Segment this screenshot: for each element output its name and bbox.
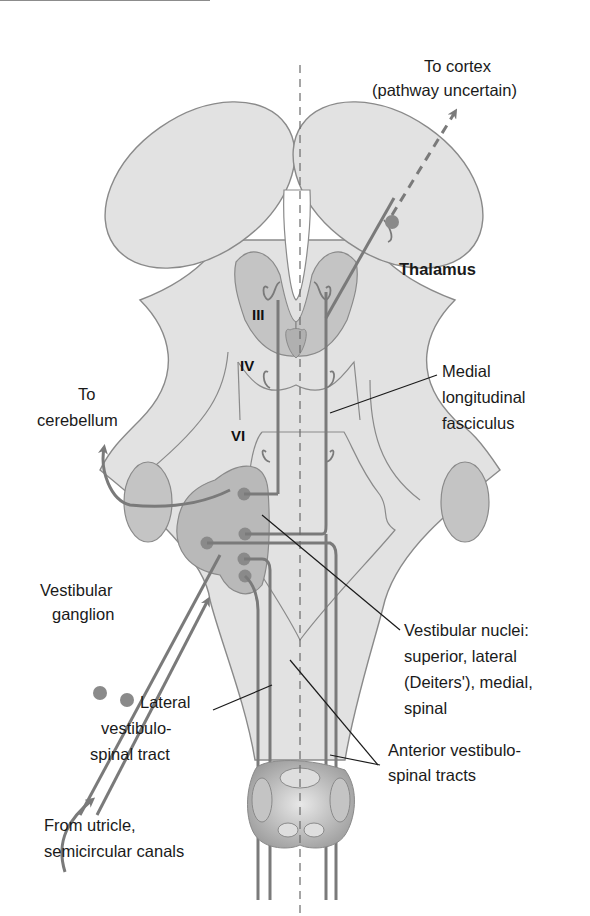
label-thalamus: Thalamus bbox=[399, 259, 476, 279]
label-pathway-uncertain: (pathway uncertain) bbox=[372, 80, 517, 100]
label-vestibular-nuclei-4: spinal bbox=[404, 698, 447, 718]
label-to-cerebellum-1: To bbox=[78, 384, 95, 404]
label-nucleus-VI: VI bbox=[231, 427, 245, 444]
label-from-utricle-2: semicircular canals bbox=[44, 841, 184, 861]
label-medial-3: fasciculus bbox=[442, 413, 514, 433]
label-vestibular-ganglion-2: ganglion bbox=[52, 604, 114, 624]
label-vestibular-ganglion-1: Vestibular bbox=[40, 580, 112, 600]
label-medial-2: longitudinal bbox=[442, 387, 525, 407]
brainstem-diagram bbox=[0, 0, 590, 916]
label-medial-1: Medial bbox=[442, 361, 491, 381]
spinal-cord-section bbox=[248, 761, 355, 848]
cerebellar-peduncle-right bbox=[441, 462, 489, 542]
label-lateral-vs-3: spinal tract bbox=[90, 744, 170, 764]
label-vestibular-nuclei-3: (Deiters'), medial, bbox=[404, 672, 533, 692]
label-nucleus-IV: IV bbox=[240, 357, 254, 374]
label-lateral-vs-1: Lateral bbox=[140, 692, 190, 712]
label-anterior-vs-2: spinal tracts bbox=[388, 765, 476, 785]
label-to-cortex: To cortex bbox=[424, 56, 491, 76]
cerebellar-peduncle-left bbox=[124, 462, 172, 542]
label-from-utricle-1: From utricle, bbox=[44, 815, 136, 835]
label-vestibular-nuclei-2: superior, lateral bbox=[404, 646, 517, 666]
label-lateral-vs-2: vestibulo- bbox=[101, 718, 172, 738]
label-nucleus-III: III bbox=[252, 306, 265, 323]
label-to-cerebellum-2: cerebellum bbox=[37, 410, 118, 430]
label-vestibular-nuclei-1: Vestibular nuclei: bbox=[404, 620, 529, 640]
label-anterior-vs-1: Anterior vestibulo- bbox=[388, 740, 521, 760]
diagram-canvas: To cortex (pathway uncertain) Thalamus I… bbox=[0, 0, 590, 916]
